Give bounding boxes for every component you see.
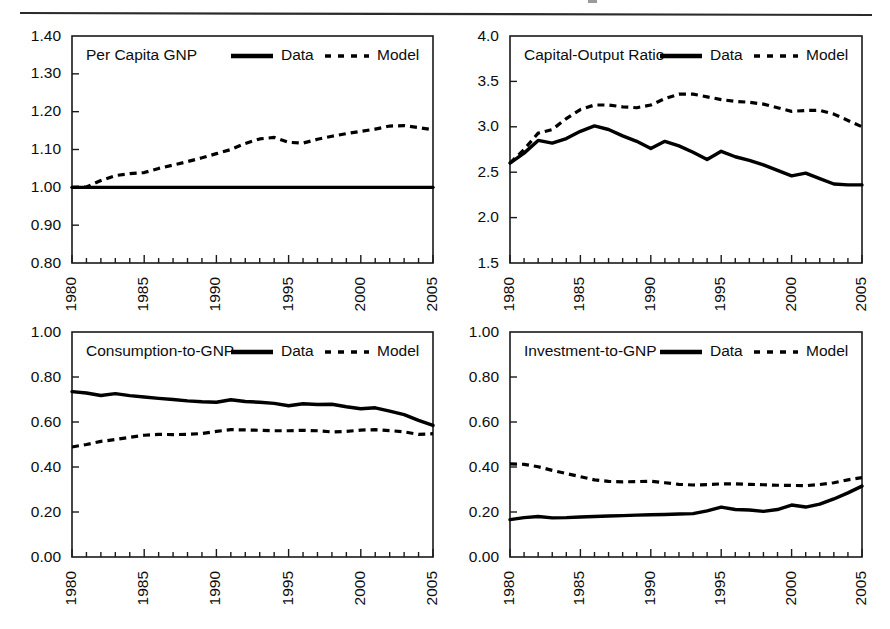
x-tick-label-capital-output-ratio-1: 1985 xyxy=(570,277,587,311)
y-tick-label-per-capita-gnp-0: 1.40 xyxy=(31,27,62,44)
x-tick-label-per-capita-gnp-2: 1990 xyxy=(206,277,223,312)
series-line-investment-to-gnp-model xyxy=(510,464,862,486)
legend-label-data-consumption-to-gnp: Data xyxy=(281,342,314,359)
four-panel-line-chart-figure: 1.401.301.201.101.000.900.80198019851990… xyxy=(0,0,890,629)
series-line-capital-output-ratio-data xyxy=(510,126,862,185)
y-tick-label-investment-to-gnp-1: 0.80 xyxy=(469,368,500,385)
y-tick-label-capital-output-ratio-3: 2.5 xyxy=(477,163,499,180)
y-tick-label-per-capita-gnp-3: 1.10 xyxy=(31,140,62,157)
series-line-consumption-to-gnp-model xyxy=(72,430,433,447)
y-tick-label-capital-output-ratio-0: 4.0 xyxy=(477,27,499,44)
y-tick-label-consumption-to-gnp-1: 0.80 xyxy=(31,368,62,385)
plot-frame-per-capita-gnp xyxy=(72,36,433,263)
panel-layer: 1.401.301.201.101.000.900.80198019851990… xyxy=(31,27,869,606)
y-tick-label-investment-to-gnp-5: 0.00 xyxy=(469,548,500,565)
y-tick-label-per-capita-gnp-1: 1.30 xyxy=(31,64,62,81)
x-tick-label-capital-output-ratio-5: 2005 xyxy=(852,277,869,311)
x-tick-label-capital-output-ratio-0: 1980 xyxy=(500,277,517,312)
legend-label-model-investment-to-gnp: Model xyxy=(806,342,848,359)
plot-frame-consumption-to-gnp xyxy=(72,332,433,557)
y-tick-label-capital-output-ratio-1: 3.5 xyxy=(477,72,499,89)
legend-label-model-per-capita-gnp: Model xyxy=(377,46,419,63)
y-tick-label-investment-to-gnp-3: 0.40 xyxy=(469,458,500,475)
x-tick-label-capital-output-ratio-3: 1995 xyxy=(711,277,728,311)
y-tick-label-per-capita-gnp-5: 0.90 xyxy=(31,216,62,233)
chart-panel-investment-to-gnp: 1.000.800.600.400.200.001980198519901995… xyxy=(469,323,869,606)
x-tick-label-investment-to-gnp-5: 2005 xyxy=(852,571,869,605)
legend-label-data-capital-output-ratio: Data xyxy=(710,46,743,63)
x-tick-label-capital-output-ratio-2: 1990 xyxy=(641,277,658,312)
x-tick-label-consumption-to-gnp-0: 1980 xyxy=(62,571,79,606)
legend-label-model-capital-output-ratio: Model xyxy=(806,46,848,63)
panel-title-consumption-to-gnp: Consumption-to-GNP xyxy=(86,342,234,359)
panel-title-investment-to-gnp: Investment-to-GNP xyxy=(524,342,657,359)
y-tick-label-consumption-to-gnp-0: 1.00 xyxy=(31,323,62,340)
x-tick-label-consumption-to-gnp-3: 1995 xyxy=(279,571,296,605)
clipped-text-artifact xyxy=(588,0,597,3)
figure-root: 1.401.301.201.101.000.900.80198019851990… xyxy=(0,0,890,629)
x-tick-label-investment-to-gnp-1: 1985 xyxy=(570,571,587,605)
panel-title-per-capita-gnp: Per Capita GNP xyxy=(86,46,197,63)
series-line-investment-to-gnp-data xyxy=(510,486,862,520)
series-line-consumption-to-gnp-data xyxy=(72,392,433,426)
x-tick-label-per-capita-gnp-1: 1985 xyxy=(134,277,151,311)
y-tick-label-investment-to-gnp-0: 1.00 xyxy=(469,323,500,340)
y-tick-label-capital-output-ratio-4: 2.0 xyxy=(477,208,499,225)
legend-label-data-investment-to-gnp: Data xyxy=(710,342,743,359)
y-tick-label-per-capita-gnp-4: 1.00 xyxy=(31,178,62,195)
chart-panel-per-capita-gnp: 1.401.301.201.101.000.900.80198019851990… xyxy=(31,27,440,312)
x-tick-label-per-capita-gnp-3: 1995 xyxy=(279,277,296,311)
y-tick-label-investment-to-gnp-4: 0.20 xyxy=(469,503,500,520)
x-tick-label-consumption-to-gnp-1: 1985 xyxy=(134,571,151,605)
x-tick-label-capital-output-ratio-4: 2000 xyxy=(782,277,799,312)
panel-title-capital-output-ratio: Capital-Output Ratio xyxy=(524,46,664,63)
y-tick-label-consumption-to-gnp-5: 0.00 xyxy=(31,548,62,565)
chart-panel-consumption-to-gnp: 1.000.800.600.400.200.001980198519901995… xyxy=(31,323,440,606)
x-tick-label-investment-to-gnp-4: 2000 xyxy=(782,571,799,606)
y-tick-label-consumption-to-gnp-4: 0.20 xyxy=(31,503,62,520)
x-tick-label-investment-to-gnp-0: 1980 xyxy=(500,571,517,606)
x-tick-label-per-capita-gnp-5: 2005 xyxy=(423,277,440,311)
legend-label-model-consumption-to-gnp: Model xyxy=(377,342,419,359)
y-tick-label-investment-to-gnp-2: 0.60 xyxy=(469,413,500,430)
x-tick-label-consumption-to-gnp-5: 2005 xyxy=(423,571,440,605)
x-tick-label-investment-to-gnp-3: 1995 xyxy=(711,571,728,605)
y-tick-label-capital-output-ratio-2: 3.0 xyxy=(477,117,499,134)
x-tick-label-consumption-to-gnp-2: 1990 xyxy=(206,571,223,606)
x-tick-label-per-capita-gnp-4: 2000 xyxy=(351,277,368,312)
x-tick-label-consumption-to-gnp-4: 2000 xyxy=(351,571,368,606)
y-tick-label-capital-output-ratio-5: 1.5 xyxy=(477,254,499,271)
x-tick-label-investment-to-gnp-2: 1990 xyxy=(641,571,658,606)
legend-label-data-per-capita-gnp: Data xyxy=(281,46,314,63)
y-tick-label-per-capita-gnp-2: 1.20 xyxy=(31,102,62,119)
series-line-capital-output-ratio-model xyxy=(510,94,862,163)
y-tick-label-consumption-to-gnp-3: 0.40 xyxy=(31,458,62,475)
chart-panel-capital-output-ratio: 4.03.53.02.52.01.51980198519901995200020… xyxy=(477,27,869,312)
header-rule xyxy=(20,13,872,15)
y-tick-label-per-capita-gnp-6: 0.80 xyxy=(31,254,62,271)
y-tick-label-consumption-to-gnp-2: 0.60 xyxy=(31,413,62,430)
series-line-per-capita-gnp-model xyxy=(72,126,433,188)
x-tick-label-per-capita-gnp-0: 1980 xyxy=(62,277,79,312)
plot-frame-investment-to-gnp xyxy=(510,332,862,557)
